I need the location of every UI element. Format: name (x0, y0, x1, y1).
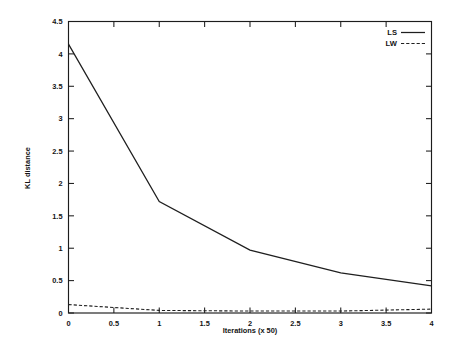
y-tick-label-1.5: 1.5 (52, 212, 62, 221)
x-tick-label-3: 3 (339, 319, 343, 328)
x-tick-label-2.5: 2.5 (290, 319, 300, 328)
chart-figure: 00.511.522.533.54 00.511.522.533.544.5 I… (0, 0, 450, 349)
x-tick-label-1.5: 1.5 (199, 319, 209, 328)
y-tick-label-1: 1 (58, 244, 62, 253)
y-tick-label-0: 0 (58, 309, 62, 318)
x-tick-label-1: 1 (157, 319, 161, 328)
chart-background (0, 0, 450, 349)
x-tick-label-0: 0 (66, 319, 70, 328)
x-tick-label-0.5: 0.5 (109, 319, 119, 328)
kl-distance-line-chart: 00.511.522.533.54 00.511.522.533.544.5 I… (0, 0, 450, 349)
y-tick-label-3.5: 3.5 (52, 82, 62, 91)
y-tick-label-2: 2 (58, 179, 62, 188)
y-tick-label-4.5: 4.5 (52, 17, 62, 26)
legend-label-lw: LW (386, 39, 398, 48)
x-tick-label-3.5: 3.5 (381, 319, 391, 328)
x-axis-title: Iterations (x 50) (223, 326, 278, 335)
y-tick-label-0.5: 0.5 (52, 276, 62, 285)
legend-label-ls: LS (387, 28, 397, 37)
y-axis-title: KL distance (23, 147, 32, 189)
y-tick-label-3: 3 (58, 114, 62, 123)
y-tick-label-2.5: 2.5 (52, 147, 62, 156)
